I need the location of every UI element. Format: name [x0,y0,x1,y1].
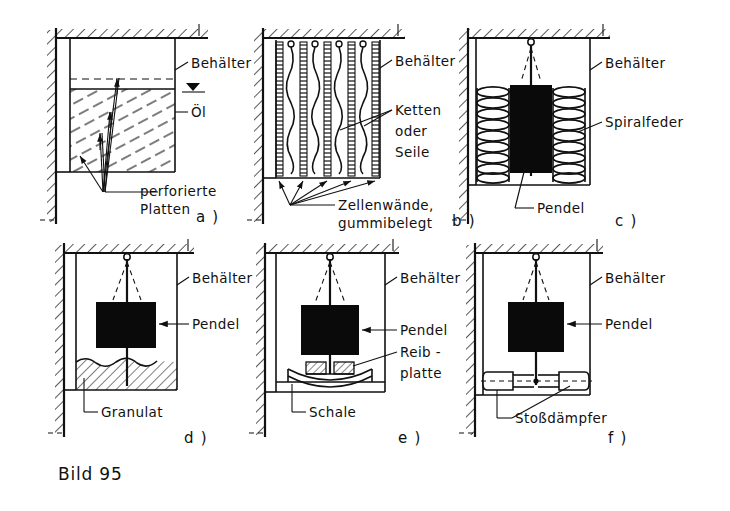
label-a-plates-line1: perforierte [140,183,217,199]
label-e-container: Behälter [400,270,461,286]
label-f-damper: Stoßdämpfer [515,410,607,426]
figure-caption: Bild 95 [58,464,123,484]
figure-bild-95: Behälter Öl perforierte Platten a ) [0,0,730,511]
label-a-oil: Öl [191,103,206,120]
panel-id-a: a ) [196,208,219,226]
pendulum-mass-c [510,85,552,173]
label-c-spring: Spiralfeder [605,114,683,130]
label-d-pendulum: Pendel [192,316,240,332]
label-b-chains-line3: Seile [395,144,430,160]
label-a-container: Behälter [191,55,252,71]
pendulum-mass-e [301,305,359,355]
friction-plate-right-e [334,362,354,374]
label-b-container: Behälter [395,53,456,69]
label-b-cells-line1: Zellenwände, [338,197,434,213]
label-c-pendulum: Pendel [537,200,585,216]
label-f-container: Behälter [605,270,666,286]
panel-id-c: c ) [615,212,637,230]
label-b-chains-line1: Ketten [395,102,441,118]
pendulum-mass-d [96,302,156,348]
label-e-bowl: Schale [309,404,356,420]
label-c-container: Behälter [605,55,666,71]
panel-id-e: e ) [398,429,421,447]
shock-absorber-left-f [481,372,536,390]
label-d-granulate: Granulat [101,404,163,420]
friction-plate-left-e [306,362,326,374]
label-e-pendulum: Pendel [400,322,448,338]
panel-id-f: f ) [608,429,628,447]
label-e-friction-line2: platte [400,365,442,381]
pendulum-mass-f [508,302,564,352]
label-a-plates-line2: Platten [140,201,190,217]
label-b-cells-line2: gummibelegt [338,215,432,231]
label-f-pendulum: Pendel [605,316,653,332]
panel-id-d: d ) [184,429,208,447]
label-d-container: Behälter [192,270,253,286]
label-e-friction-line1: Reib - [400,344,441,360]
label-b-chains-line2: oder [395,123,427,139]
